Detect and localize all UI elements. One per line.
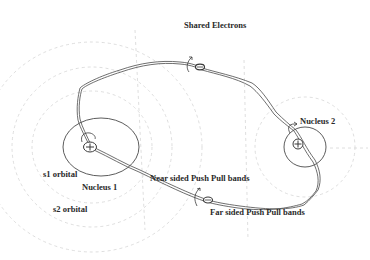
s1-orbital-label: s1 orbital (43, 170, 77, 179)
faint-orbital-rings (0, 30, 368, 252)
far-side-electron-icon (204, 197, 213, 203)
nucleus-1-label: Nucleus 1 (82, 183, 117, 192)
far-sided-label: Far sided Push Pull bands (210, 208, 305, 217)
nucleus-1-plus-icon (84, 142, 97, 152)
nucleus-2-orbit (284, 127, 326, 167)
shared-electrons-label: Shared Electrons (184, 21, 246, 30)
nucleus-2-label: Nucleus 2 (300, 117, 335, 126)
nucleus-2-plus-icon (293, 139, 303, 149)
s2-orbital-label: s2 orbital (53, 205, 87, 214)
shared-electron-icon (196, 64, 205, 70)
rotation-arrow-nucleus1 (81, 133, 95, 142)
nucleus-2-faint-ring (255, 97, 355, 197)
rotation-arrow-top (187, 57, 192, 72)
covalent-bond-diagram (0, 0, 370, 260)
near-sided-label: Near sided Push Pull bands (150, 174, 250, 183)
